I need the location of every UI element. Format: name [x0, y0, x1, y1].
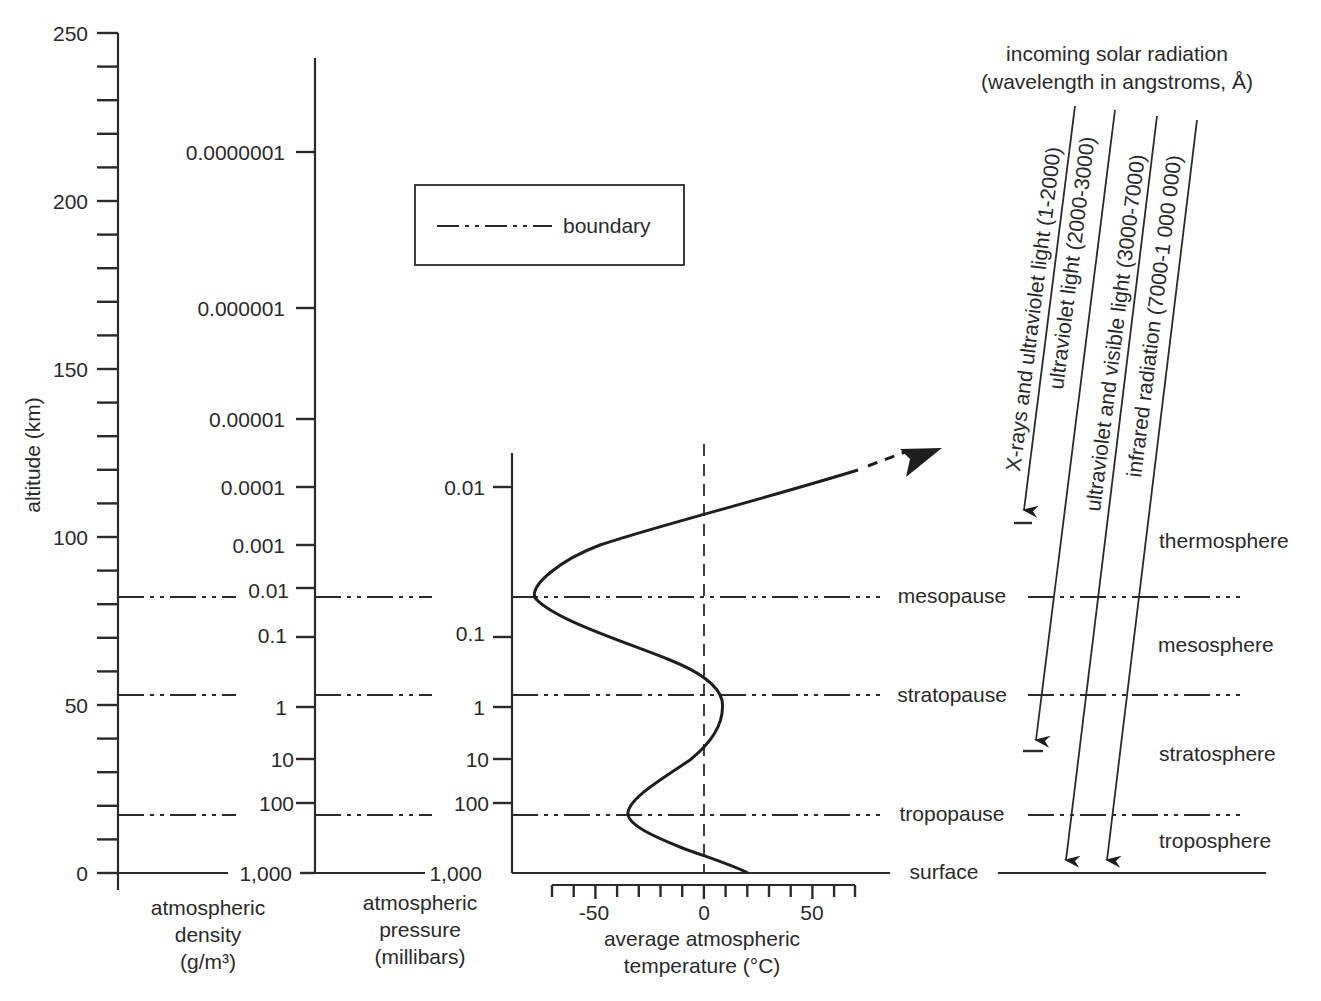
density-tick-label: 0.01 — [248, 579, 289, 602]
density-tick-label: 1,000 — [239, 862, 292, 885]
altitude-tick-label: 200 — [53, 190, 88, 213]
pressure-tick-label: 1,000 — [429, 862, 482, 885]
density-tick-label: 0.0001 — [221, 476, 285, 499]
atmosphere-diagram: 250 200 150 100 50 0 altitude (km) atmos… — [0, 0, 1321, 1001]
pressure-axis: 0.01 0.1 1 10 100 1,000 — [429, 453, 512, 885]
boundary-label-tropopause: tropopause — [899, 802, 1004, 825]
temperature-tick-label: 0 — [698, 901, 710, 924]
solar-radiation: incoming solar radiation (wavelength in … — [981, 42, 1253, 860]
temperature-curve-extension — [868, 452, 905, 466]
density-column: atmospheric density (g/m³) — [118, 873, 265, 973]
altitude-axis: 250 200 150 100 50 0 altitude (km) — [21, 22, 118, 890]
altitude-axis-label: altitude (km) — [21, 397, 44, 513]
radiation-title-1: incoming solar radiation — [1006, 42, 1228, 65]
altitude-tick-label: 50 — [65, 694, 88, 717]
boundary-label-surface: surface — [910, 860, 979, 883]
pressure-tick-label: 10 — [466, 748, 489, 771]
density-axis-label-1: atmospheric — [151, 896, 265, 919]
temperature-arrow-icon — [900, 448, 942, 477]
temperature-axis: -50 0 50 average atmospheric temperature… — [552, 885, 855, 977]
density-tick-label: 100 — [259, 792, 294, 815]
density-tick-label: 0.0000001 — [186, 141, 285, 164]
boundary-label-stratopause: stratopause — [897, 683, 1007, 706]
altitude-ticks — [97, 33, 118, 873]
density-tick-label: 0.00001 — [209, 408, 285, 431]
pressure-axis-label-3: (millibars) — [375, 945, 466, 968]
layer-label-stratosphere: stratosphere — [1159, 742, 1276, 765]
layer-label-thermosphere: thermosphere — [1159, 529, 1289, 552]
altitude-tick-label: 150 — [53, 358, 88, 381]
pressure-tick-label: 0.1 — [456, 622, 485, 645]
layer-label-mesosphere: mesosphere — [1158, 633, 1274, 656]
density-tick-label: 10 — [271, 748, 294, 771]
temperature-axis-label-1: average atmospheric — [604, 927, 800, 950]
altitude-tick-label: 0 — [76, 862, 88, 885]
density-axis-label-2: density — [175, 923, 242, 946]
temperature-tick-label: -50 — [579, 901, 609, 924]
altitude-tick-label: 250 — [53, 22, 88, 45]
altitude-tick-label: 100 — [53, 526, 88, 549]
boundary-label-mesopause: mesopause — [898, 584, 1007, 607]
pressure-tick-label: 0.01 — [444, 476, 485, 499]
legend-label: boundary — [563, 214, 651, 237]
pressure-axis-label-1: atmospheric — [363, 891, 477, 914]
radiation-title-2: (wavelength in angstroms, Å) — [981, 70, 1253, 93]
density-tick-label: 1 — [275, 696, 287, 719]
pressure-tick-label: 100 — [454, 792, 489, 815]
temperature-axis-label-2: temperature (°C) — [624, 954, 781, 977]
density-tick-label: 0.1 — [258, 624, 287, 647]
temperature-tick-label: 50 — [800, 901, 823, 924]
pressure-axis-label-2: pressure — [379, 918, 461, 941]
density-tick-label: 0.001 — [232, 534, 285, 557]
pressure-tick-label: 1 — [473, 696, 485, 719]
temperature-curve — [534, 470, 858, 873]
density-tick-label: 0.000001 — [197, 297, 285, 320]
layer-label-troposphere: troposphere — [1159, 829, 1271, 852]
density-axis-label-3: (g/m³) — [180, 950, 236, 973]
legend: boundary — [415, 185, 684, 265]
